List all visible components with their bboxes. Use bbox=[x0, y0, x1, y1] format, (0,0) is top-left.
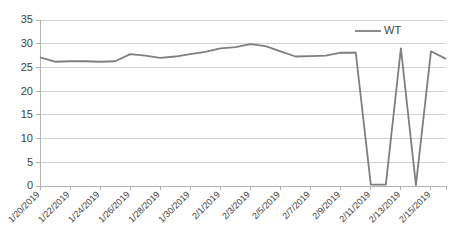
x-axis-tick-label: 1/20/2019 bbox=[6, 189, 41, 224]
legend-label-wt: WT bbox=[384, 24, 401, 36]
x-axis-labels-group: 1/20/20191/22/20191/24/20191/26/20191/28… bbox=[6, 189, 432, 224]
y-axis-tick-label: 10 bbox=[21, 132, 33, 144]
y-axis-labels-group: 05101520253035 bbox=[21, 13, 33, 191]
x-axis-tick-label: 1/22/2019 bbox=[36, 189, 71, 224]
plot-area: 05101520253035 1/20/20191/22/20191/24/20… bbox=[0, 0, 453, 243]
y-axis-tick-label: 15 bbox=[21, 108, 33, 120]
x-axis-tick-label: 2/5/2019 bbox=[250, 189, 282, 221]
x-axis-tick-label: 1/24/2019 bbox=[66, 189, 101, 224]
y-axis-tick-label: 0 bbox=[27, 179, 33, 191]
x-axis-tick-label: 1/30/2019 bbox=[156, 189, 191, 224]
x-axis-tick-label: 1/26/2019 bbox=[96, 189, 131, 224]
x-axis-tick-label: 2/15/2019 bbox=[397, 189, 432, 224]
y-axis-tick-label: 5 bbox=[27, 156, 33, 168]
x-axis-ticks-group bbox=[40, 186, 446, 190]
y-axis-tick-label: 35 bbox=[21, 13, 33, 25]
y-axis-tick-label: 30 bbox=[21, 37, 33, 49]
y-axis-ticks-group bbox=[36, 20, 40, 186]
x-axis-tick-label: 2/7/2019 bbox=[280, 189, 312, 221]
chart-container: 05101520253035 1/20/20191/22/20191/24/20… bbox=[0, 0, 453, 243]
x-axis-tick-label: 2/3/2019 bbox=[220, 189, 252, 221]
legend: WT bbox=[355, 24, 401, 36]
y-axis-tick-label: 25 bbox=[21, 61, 33, 73]
x-axis-tick-label: 2/13/2019 bbox=[367, 189, 402, 224]
x-axis-tick-label: 2/1/2019 bbox=[190, 189, 222, 221]
x-axis-tick-label: 1/28/2019 bbox=[126, 189, 161, 224]
line-chart-svg: 05101520253035 1/20/20191/22/20191/24/20… bbox=[0, 0, 453, 243]
y-axis-tick-label: 20 bbox=[21, 85, 33, 97]
